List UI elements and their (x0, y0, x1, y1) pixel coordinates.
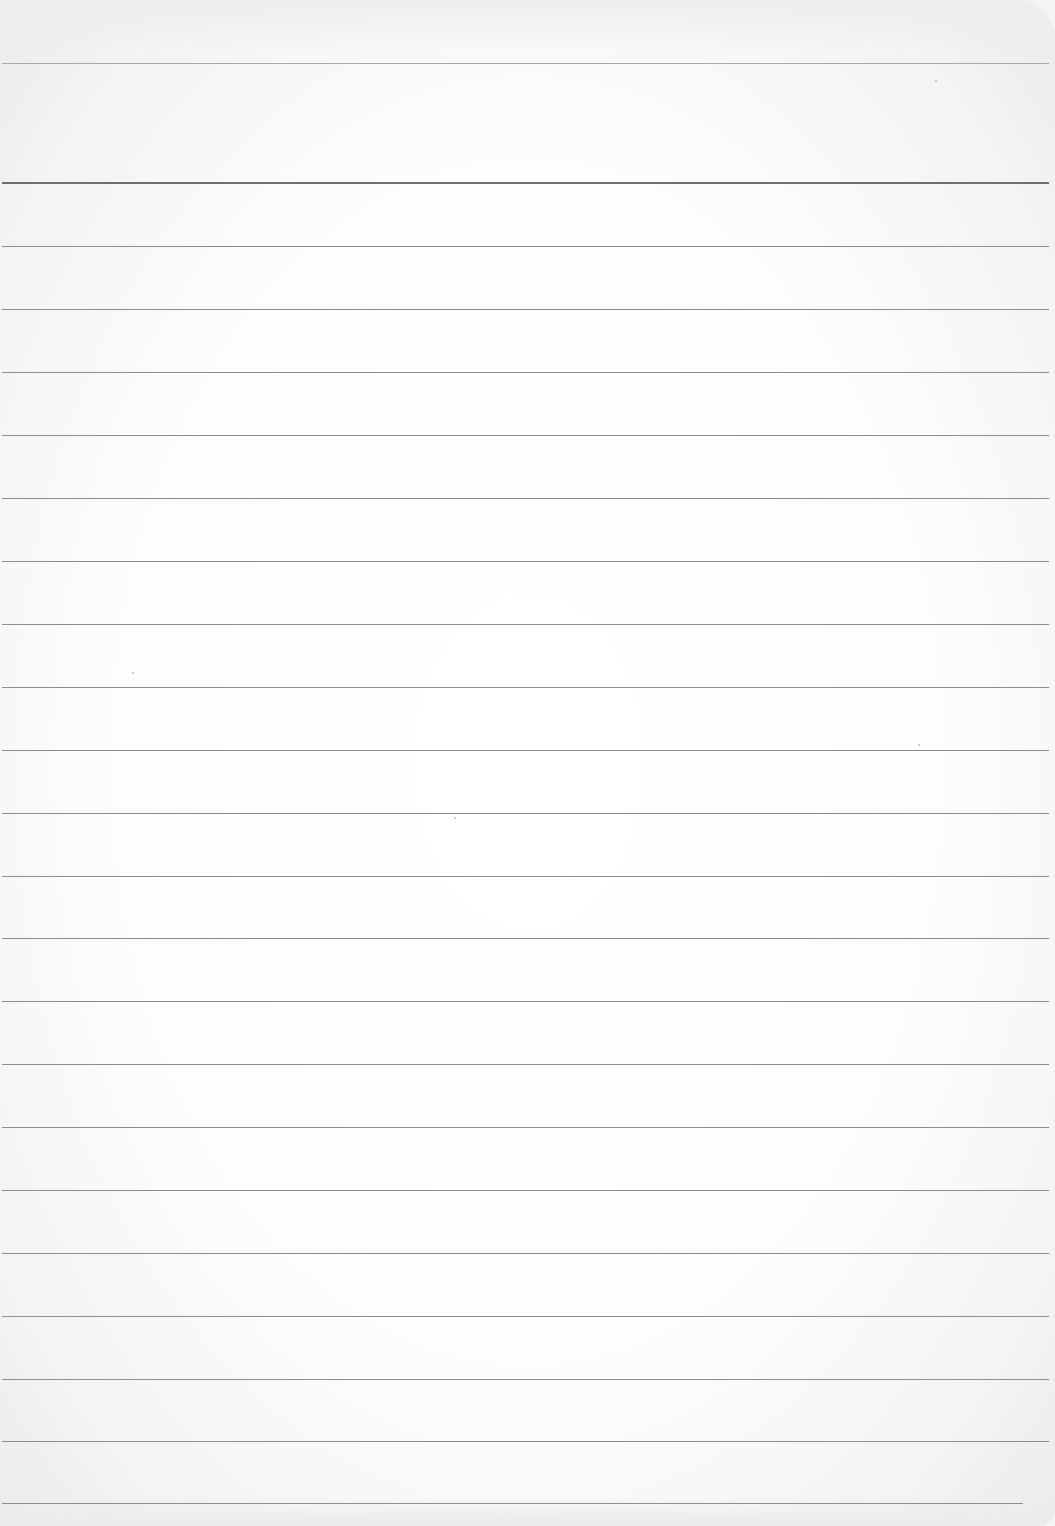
paper-speck (918, 744, 920, 746)
ruled-line (2, 876, 1049, 877)
ruled-line (2, 938, 1049, 939)
ruled-line (2, 1127, 1049, 1128)
ruled-line (2, 1253, 1049, 1254)
ruled-line (2, 246, 1049, 247)
ruled-line (2, 750, 1049, 751)
ruled-line (2, 813, 1049, 814)
ruled-line (2, 1190, 1049, 1191)
ruled-line (2, 624, 1049, 625)
ruled-line (2, 1379, 1049, 1380)
ruled-line (2, 561, 1049, 562)
paper-top-shading (0, 0, 1055, 55)
header-rule (2, 182, 1049, 184)
ruled-line (2, 1316, 1049, 1317)
ruled-paper-sheet (0, 0, 1055, 1526)
paper-speck (454, 817, 456, 819)
ruled-line (2, 309, 1049, 310)
ruled-line (2, 498, 1049, 499)
paper-speck (132, 672, 134, 674)
ruled-line (2, 1064, 1049, 1065)
ruled-line (2, 435, 1049, 436)
ruled-line (2, 1503, 1023, 1504)
paper-speck (935, 80, 937, 82)
paper-bottom-shading (0, 1496, 1055, 1526)
ruled-line (2, 372, 1049, 373)
ruled-line (2, 1001, 1049, 1002)
ruled-line (2, 1441, 1049, 1442)
ruled-line (2, 687, 1049, 688)
top-margin-rule (2, 63, 1049, 64)
